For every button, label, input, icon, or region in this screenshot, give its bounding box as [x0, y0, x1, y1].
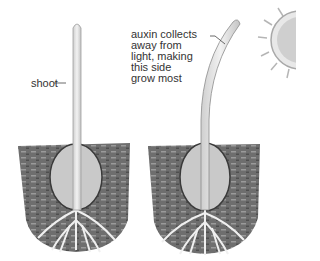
shoot-label: shoot: [31, 78, 58, 89]
sun-icon: [258, 3, 296, 78]
auxin-label: auxin collects away from light, making t…: [131, 29, 197, 84]
shoot-left: [73, 24, 81, 210]
auxin-line-5: grow most: [131, 73, 197, 84]
